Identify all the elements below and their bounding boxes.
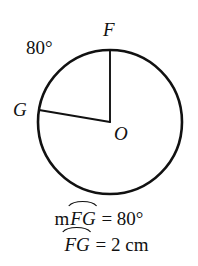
caption: mFG = 80° FG = 2 cm: [0, 206, 198, 258]
point-label-f: F: [103, 20, 115, 39]
caption-line-arc-length: FG = 2 cm: [0, 232, 198, 258]
arc-notation-fg-length: FG: [63, 232, 90, 258]
point-label-g: G: [13, 100, 27, 119]
arc-angle-annotation: 80°: [26, 38, 53, 57]
arc-notation-fg-measure: FG: [69, 206, 96, 232]
measure-prefix: m: [55, 208, 70, 229]
arc-endpoints-label: FG: [64, 234, 89, 255]
arc-length-value: 2 cm: [111, 234, 148, 255]
point-label-o: O: [114, 124, 128, 143]
geometry-figure: F G O 80° mFG = 80° FG = 2 cm: [0, 0, 198, 266]
arc-measure-value: 80°: [117, 208, 144, 229]
equals-operator: =: [96, 234, 107, 255]
equals-operator: =: [101, 208, 112, 229]
arc-endpoints-label: FG: [70, 208, 95, 229]
radius-segment-og: [39, 110, 110, 122]
caption-line-arc-measure: mFG = 80°: [0, 206, 198, 232]
